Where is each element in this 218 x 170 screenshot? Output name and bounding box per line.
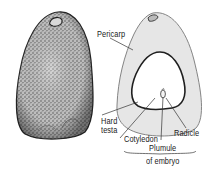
label-plumule: Plumule bbox=[149, 143, 176, 153]
label-radicle: Radicle bbox=[174, 128, 199, 138]
whole-seed bbox=[16, 12, 93, 139]
label-pericarp: Pericarp bbox=[97, 29, 125, 39]
seed-section bbox=[117, 13, 202, 136]
label-of-embryo: of embryo bbox=[146, 156, 180, 166]
label-testa: testa bbox=[101, 125, 117, 135]
seed-diagram bbox=[0, 0, 218, 170]
